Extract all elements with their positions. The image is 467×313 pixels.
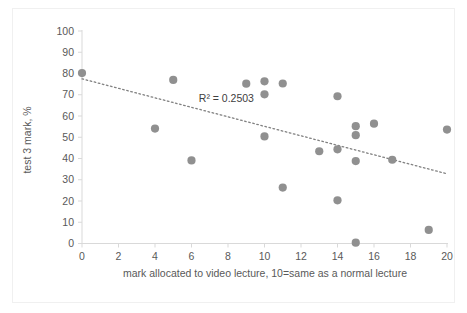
x-tick-label: 8 xyxy=(225,250,231,262)
chart-canvas: 0102030405060708090100 02468101214161820… xyxy=(0,0,467,313)
data-point xyxy=(333,145,341,153)
data-point xyxy=(260,77,268,85)
y-tick-label: 0 xyxy=(68,237,74,249)
x-tick-label: 20 xyxy=(441,250,453,262)
data-point xyxy=(425,226,433,234)
data-point xyxy=(388,156,396,164)
data-point xyxy=(352,239,360,247)
y-tick-label: 70 xyxy=(62,88,74,100)
y-tick-label: 40 xyxy=(62,152,74,164)
data-point xyxy=(169,76,177,84)
x-tick-label: 12 xyxy=(295,250,307,262)
data-point xyxy=(260,90,268,98)
data-point xyxy=(242,80,250,88)
x-tick-label: 16 xyxy=(368,250,380,262)
y-tick-label: 20 xyxy=(62,195,74,207)
x-tick-label: 2 xyxy=(116,250,122,262)
x-tick-label: 18 xyxy=(405,250,417,262)
x-axis-title: mark allocated to video lecture, 10=same… xyxy=(123,267,407,279)
y-tick-label: 50 xyxy=(62,131,74,143)
x-tick-label: 6 xyxy=(189,250,195,262)
data-point xyxy=(443,126,451,134)
data-point xyxy=(333,92,341,100)
x-tick-label: 14 xyxy=(332,250,344,262)
data-point xyxy=(151,124,159,132)
data-point xyxy=(279,79,287,87)
y-tick-label: 90 xyxy=(62,46,74,58)
scatter-chart: 0102030405060708090100 02468101214161820… xyxy=(0,0,467,313)
data-point xyxy=(260,132,268,140)
y-tick-label: 100 xyxy=(56,25,74,37)
data-point xyxy=(315,147,323,155)
x-tick-label: 10 xyxy=(259,250,271,262)
y-tick-label: 80 xyxy=(62,67,74,79)
data-point xyxy=(187,156,195,164)
data-point xyxy=(352,122,360,130)
x-tick-label: 0 xyxy=(79,250,85,262)
data-point xyxy=(352,131,360,139)
y-tick-label: 60 xyxy=(62,110,74,122)
x-axis-tick-labels: 02468101214161820 xyxy=(79,250,453,262)
x-tick-label: 4 xyxy=(152,250,158,262)
data-point xyxy=(279,184,287,192)
data-points xyxy=(78,69,451,247)
data-point xyxy=(352,157,360,165)
y-tick-label: 30 xyxy=(62,173,74,185)
y-tick-label: 10 xyxy=(62,216,74,228)
data-point xyxy=(78,69,86,77)
y-axis-title: test 3 mark, % xyxy=(21,106,33,173)
data-point xyxy=(333,196,341,204)
data-point xyxy=(370,120,378,128)
r-squared-annotation: R² = 0.2503 xyxy=(199,92,254,104)
y-axis-tick-labels: 0102030405060708090100 xyxy=(56,25,74,250)
